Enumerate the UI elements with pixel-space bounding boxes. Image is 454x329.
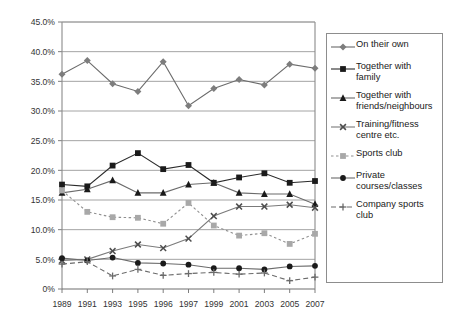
legend-item-label: Company sports club [356,199,424,221]
data-point-marker [135,150,141,156]
data-point-marker [186,200,192,206]
data-point-marker [186,262,192,268]
legend-marker-diamond-icon [330,40,356,54]
data-point-marker [109,177,116,184]
y-axis-tick-label: 20.0% [31,166,56,176]
data-point-marker [135,215,141,221]
data-point-marker [59,71,66,78]
y-axis-tick-label: 0% [43,284,56,294]
data-point-marker [312,274,319,281]
legend-marker-square-icon [330,149,356,163]
legend-item-label: Together with friends/neighbours [356,90,433,112]
legend-marker-circle-icon [330,171,356,185]
data-point-marker [211,213,217,219]
data-point-marker [236,233,242,239]
legend-item[interactable]: Private courses/classes [330,170,439,192]
legend-item-label: On their own [356,39,409,50]
x-axis-tick-label: 1993 [103,299,122,309]
data-point-marker [185,102,192,109]
data-point-marker [135,266,142,273]
x-axis-tick-label: 2003 [255,299,274,309]
series-line [62,191,315,244]
data-point-marker [287,180,293,186]
y-axis-tick-label: 25.0% [31,136,56,146]
data-point-marker [262,230,268,236]
data-point-marker [210,269,217,276]
data-point-marker [211,223,217,229]
data-point-marker [186,162,192,168]
data-point-marker [287,241,293,247]
data-point-marker [135,260,141,266]
data-point-marker [236,265,242,271]
data-point-marker [262,170,268,176]
data-point-marker [59,188,65,194]
chart-series [59,255,318,273]
chart-legend: On their ownTogether with familyTogether… [326,33,443,283]
x-axis-tick-label: 2005 [280,299,299,309]
data-point-marker [236,175,242,181]
x-axis-tick-label: 1991 [78,299,97,309]
chart-series [59,202,318,264]
x-axis: 1989199119931995199619971999200120032005… [52,289,324,309]
legend-item[interactable]: Training/fitness centre etc. [330,119,439,141]
data-point-marker [84,209,90,215]
y-axis-tick-label: 40.0% [31,47,56,57]
x-axis-tick-label: 1989 [52,299,71,309]
legend-item[interactable]: Together with friends/neighbours [330,90,439,112]
legend-item[interactable]: Company sports club [330,199,439,221]
y-axis-tick-label: 5.0% [35,255,55,265]
y-axis-tick-label: 15.0% [31,195,56,205]
legend-item[interactable]: Together with family [330,61,439,83]
data-point-marker [185,270,192,277]
legend-item-label: Together with family [356,61,411,83]
x-axis-tick-label: 1997 [179,299,198,309]
legend-item-label: Private courses/classes [356,170,422,192]
data-point-marker [160,221,166,227]
x-axis-tick-label: 1999 [204,299,223,309]
chart-series [59,57,319,109]
data-point-marker [236,271,243,278]
legend-item-label: Sports club [356,148,403,159]
gridlines: 0%5.0%10.0%15.0%20.0%25.0%30.0%35.0%40.0… [31,17,315,294]
data-point-marker [109,273,116,280]
data-point-marker [312,231,318,237]
data-point-marker [312,178,318,184]
data-point-marker [59,182,65,188]
y-axis-tick-label: 45.0% [31,17,56,27]
data-point-marker [286,277,293,284]
x-axis-tick-label: 1995 [128,299,147,309]
data-point-marker [160,272,167,279]
data-point-marker [160,261,166,267]
y-axis-tick-label: 30.0% [31,106,56,116]
data-point-marker [287,264,293,270]
x-axis-tick-label: 2007 [305,299,324,309]
data-point-marker [312,263,318,269]
data-point-marker [110,214,116,220]
data-point-marker [236,76,243,83]
data-point-marker [210,85,217,92]
data-point-marker [312,65,319,72]
legend-marker-plus-icon [330,200,356,214]
y-axis-tick-label: 10.0% [31,225,56,235]
data-point-marker [110,255,116,261]
x-axis-tick-label: 1996 [154,299,173,309]
data-point-marker [110,163,116,169]
series-line [62,205,315,261]
legend-marker-triangle-icon [330,91,356,105]
legend-item[interactable]: Sports club [330,148,439,163]
series-line [62,61,315,106]
legend-marker-x-icon [330,120,356,134]
data-point-marker [59,255,65,261]
x-axis-tick-label: 2001 [230,299,249,309]
data-point-marker [186,236,192,242]
data-point-marker [160,166,166,172]
legend-item-label: Training/fitness centre etc. [356,119,419,141]
legend-marker-square-icon [330,62,356,76]
legend-item[interactable]: On their own [330,39,439,54]
data-point-marker [59,261,66,268]
line-chart: 0%5.0%10.0%15.0%20.0%25.0%30.0%35.0%40.0… [0,0,454,329]
y-axis-tick-label: 35.0% [31,77,56,87]
